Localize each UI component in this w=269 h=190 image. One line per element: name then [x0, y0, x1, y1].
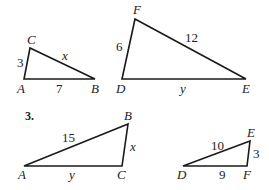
vertex-label-f: F	[242, 167, 252, 182]
vertex-label-a: A	[17, 167, 26, 182]
vertex-label-d: D	[115, 81, 126, 96]
side-label-df: 6	[116, 39, 123, 54]
side-label-ac: y	[67, 167, 75, 182]
vertex-label-a: A	[16, 81, 25, 96]
triangle-def-top: F D E 6 12 y	[115, 2, 250, 96]
vertex-label-f: F	[132, 2, 142, 17]
side-label-de: y	[178, 81, 186, 96]
side-label-ac: 3	[17, 55, 24, 70]
side-label-ef: 3	[253, 146, 260, 161]
vertex-label-b: B	[124, 108, 132, 123]
side-label-ab: 7	[56, 81, 63, 96]
triangle-abc-top: C A B 3 x 7	[16, 32, 99, 96]
triangle-abc-bottom: B A C 15 x y	[17, 108, 136, 182]
triangle-abc-top-outline	[24, 48, 95, 79]
vertex-label-e: E	[241, 81, 250, 96]
vertex-label-c: C	[117, 167, 126, 182]
side-label-cb: x	[61, 48, 68, 63]
diagram-canvas: C A B 3 x 7 F D E 6 12 y 3. B A C 15 x y…	[0, 0, 269, 190]
side-label-ab: 15	[62, 130, 75, 145]
vertex-label-e: E	[246, 125, 255, 140]
triangle-def-top-outline	[122, 19, 246, 79]
problem-number: 3.	[25, 109, 34, 123]
triangle-def-bottom: E D F 10 3 9	[176, 125, 260, 182]
side-label-df: 9	[219, 167, 226, 182]
side-label-fe: 12	[185, 30, 198, 45]
vertex-label-b: B	[91, 81, 99, 96]
side-label-bc: x	[129, 139, 136, 154]
triangle-abc-bottom-outline	[24, 124, 128, 166]
side-label-de: 10	[211, 138, 224, 153]
vertex-label-d: D	[176, 167, 187, 182]
vertex-label-c: C	[27, 32, 36, 47]
